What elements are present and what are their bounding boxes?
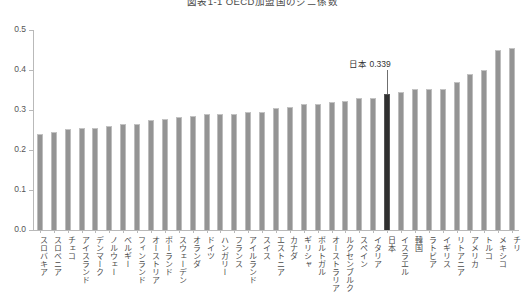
x-axis-label: 韓国 — [410, 236, 422, 252]
x-axis-tick-mark — [137, 230, 138, 233]
bar — [509, 48, 515, 230]
x-axis-tick-mark — [443, 230, 444, 233]
x-axis-tick-mark — [179, 230, 180, 233]
x-axis-label: チェコ — [63, 236, 75, 260]
x-axis-tick-mark — [290, 230, 291, 233]
bar — [120, 124, 126, 230]
bar — [467, 74, 473, 230]
x-axis-tick-mark — [82, 230, 83, 233]
x-axis-tick-mark — [248, 230, 249, 233]
bar — [176, 117, 182, 230]
x-axis-label: ベルギー — [118, 236, 130, 268]
bar — [79, 128, 85, 230]
x-axis-tick-mark — [332, 230, 333, 233]
japan-value-annotation: 日本 0.339 — [349, 57, 391, 69]
x-axis-tick-mark — [415, 230, 416, 233]
x-axis-label: イスラエル — [396, 236, 408, 276]
y-axis-tick-mark — [29, 230, 33, 231]
x-axis-tick-mark — [165, 230, 166, 233]
x-axis-label: 日本 — [382, 236, 394, 252]
bar — [329, 102, 335, 230]
x-axis-tick-mark — [95, 230, 96, 233]
bar — [92, 128, 98, 230]
y-axis-tick: 0.2 — [0, 150, 33, 151]
x-axis-tick-mark — [304, 230, 305, 233]
x-axis-tick-mark — [68, 230, 69, 233]
bar — [481, 70, 487, 230]
bar — [231, 114, 237, 230]
bar — [217, 114, 223, 230]
bar — [259, 112, 265, 230]
chart-title: 図表1-1 OECD加盟国のジニ係数 — [0, 0, 525, 8]
x-axis-tick-mark — [193, 230, 194, 233]
x-axis-label: アメリカ — [465, 236, 477, 268]
y-axis-tick-label: 0.3 — [14, 104, 26, 115]
annotation-leader-line — [387, 70, 388, 94]
bar — [37, 134, 43, 230]
y-axis-tick-label: 0.5 — [14, 24, 26, 35]
x-axis-label: イギリス — [438, 236, 450, 268]
x-axis-label: オーストラリア — [327, 236, 339, 292]
bar — [162, 119, 168, 230]
x-axis-tick-mark — [207, 230, 208, 233]
bar — [148, 120, 154, 230]
x-axis-tick-mark — [387, 230, 388, 233]
x-axis-label: ルクセンブルク — [340, 236, 352, 292]
y-axis-tick: 0.3 — [0, 110, 33, 111]
x-axis-label: スロバキア — [35, 236, 47, 276]
x-axis-label: フランス — [229, 236, 241, 268]
y-axis-tick-label: 0.1 — [14, 184, 26, 195]
x-axis-label: ノルウェー — [104, 236, 116, 276]
bar — [315, 104, 321, 230]
bar — [134, 124, 140, 230]
x-axis-label: ドイツ — [202, 236, 214, 260]
x-axis-label: トルコ — [479, 236, 491, 260]
y-axis-tick-label: 0.2 — [14, 144, 26, 155]
x-axis-tick-mark — [151, 230, 152, 233]
x-axis-tick-mark — [234, 230, 235, 233]
x-axis-tick-mark — [109, 230, 110, 233]
bar — [398, 92, 404, 230]
x-axis-label: アイルランド — [243, 236, 255, 284]
x-axis-tick-mark — [498, 230, 499, 233]
x-axis-label: ハンガリー — [215, 236, 227, 276]
y-axis-tick: 0.5 — [0, 30, 33, 31]
x-axis-tick-mark — [470, 230, 471, 233]
x-axis-tick-mark — [457, 230, 458, 233]
x-axis-tick-mark — [40, 230, 41, 233]
bar — [356, 98, 362, 230]
x-axis-label: スロベニア — [49, 236, 61, 276]
x-axis-label: イタリア — [368, 236, 380, 268]
bar — [190, 116, 196, 230]
x-axis-tick-mark — [276, 230, 277, 233]
x-axis-tick-mark — [54, 230, 55, 233]
bar — [301, 104, 307, 230]
bar — [204, 114, 210, 230]
bar — [106, 126, 112, 230]
x-axis-label: フィンランド — [132, 236, 144, 284]
x-axis-label: デンマーク — [90, 236, 102, 276]
y-axis-tick: 0.4 — [0, 70, 33, 71]
x-axis-label: ポルトガル — [313, 236, 325, 276]
bar — [51, 132, 57, 230]
bar — [426, 89, 432, 230]
bar — [370, 98, 376, 230]
bar — [440, 89, 446, 230]
x-axis-label: メキシコ — [493, 236, 505, 268]
bar — [495, 50, 501, 230]
x-axis-tick-mark — [484, 230, 485, 233]
bar — [342, 101, 348, 230]
x-axis-tick-mark — [220, 230, 221, 233]
y-axis-tick-label: 0.0 — [14, 224, 26, 235]
x-axis-label: オランダ — [188, 236, 200, 268]
x-axis-tick-mark — [359, 230, 360, 233]
bar — [454, 82, 460, 230]
plot-area — [33, 30, 519, 230]
x-axis-label: ラトビア — [424, 236, 436, 268]
chart-figure: 図表1-1 OECD加盟国のジニ係数 0.00.10.20.30.40.5 スロ… — [0, 0, 525, 306]
x-axis-label: チリ — [507, 236, 519, 252]
bar — [65, 129, 71, 230]
x-axis-label: オーストリア — [146, 236, 158, 284]
x-axis-label: アイスランド — [77, 236, 89, 284]
x-axis-tick-mark — [262, 230, 263, 233]
